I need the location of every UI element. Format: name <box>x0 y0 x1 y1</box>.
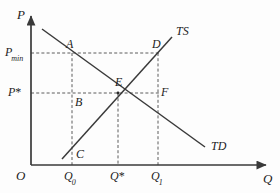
diagram-canvas <box>0 0 280 193</box>
point-label-D: D <box>152 38 161 50</box>
point-label-F: F <box>161 86 168 98</box>
tick-label-p-min: Pmin <box>5 46 24 61</box>
tick-label-q-zero: Q0 <box>64 170 77 185</box>
y-axis-label: P <box>17 8 25 21</box>
guide-lines <box>31 53 160 165</box>
tick-label-q-star-base: Q <box>110 169 119 183</box>
point-label-C: C <box>76 148 84 160</box>
tick-label-q-one: Q1 <box>151 170 164 185</box>
demand-curve-label: TD <box>211 140 226 152</box>
point-label-E: E <box>115 76 122 88</box>
supply-demand-diagram: P Q O Pmin P* Q0 Q* Q1 TS TD A B C D E F <box>0 0 280 193</box>
tick-label-q-zero-subscript: 0 <box>72 178 76 187</box>
tick-label-p-star-symbol: * <box>15 85 21 99</box>
point-label-B: B <box>75 96 82 108</box>
tick-label-q-star: Q* <box>110 170 125 182</box>
tick-label-q-one-subscript: 1 <box>159 178 163 187</box>
supply-curve-label: TS <box>176 25 189 37</box>
intersection-markers <box>117 92 120 95</box>
tick-label-p-min-subscript: min <box>11 54 23 63</box>
tick-label-p-star: P* <box>8 86 21 98</box>
x-axis-label: Q <box>263 172 272 185</box>
point-label-A: A <box>66 38 73 50</box>
tick-label-q-star-symbol: * <box>119 169 125 183</box>
point-marker-E <box>117 92 120 95</box>
origin-label: O <box>16 169 25 182</box>
